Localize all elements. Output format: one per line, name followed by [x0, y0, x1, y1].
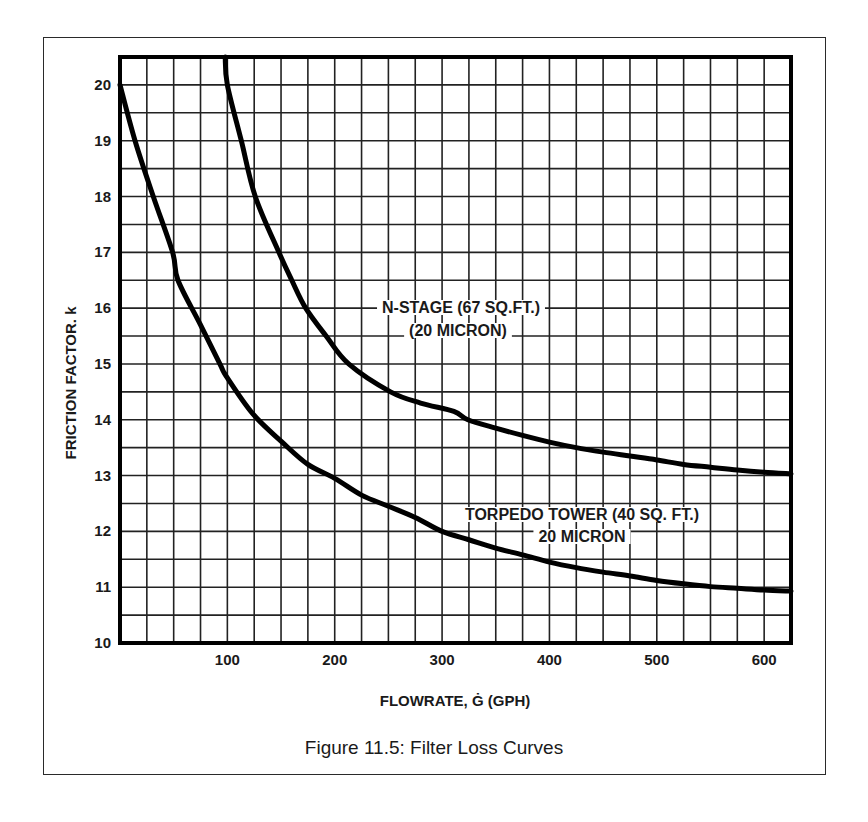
x-tick-label: 600: [752, 651, 777, 668]
plot-border: [120, 57, 791, 643]
torpedo-tower-label-line: TORPEDO TOWER (40 SQ. FT.): [465, 506, 699, 523]
y-tick-label: 13: [94, 467, 111, 484]
y-axis-title: FRICTION FACTOR. k: [62, 306, 79, 460]
y-tick-label: 15: [94, 355, 111, 372]
y-tick-label: 12: [94, 522, 111, 539]
y-tick-label: 17: [94, 243, 111, 260]
grid: [120, 57, 791, 643]
y-tick-label: 18: [94, 188, 111, 205]
y-tick-label: 19: [94, 132, 111, 149]
x-tick-label: 300: [430, 651, 455, 668]
x-tick-label: 400: [537, 651, 562, 668]
y-tick-label: 11: [95, 578, 111, 595]
y-tick-labels: 1011121314151617181920: [94, 76, 111, 651]
n-stage-curve: [225, 57, 791, 474]
y-tick-label: 10: [94, 634, 111, 651]
y-tick-label: 16: [94, 299, 111, 316]
x-tick-label: 500: [644, 651, 669, 668]
torpedo-tower-label-line: 20 MICRON: [538, 528, 625, 545]
figure-caption: Figure 11.5: Filter Loss Curves: [0, 737, 868, 759]
x-axis-title: FLOWRATE, Ġ (GPH): [380, 692, 531, 709]
n-stage-label-line: (20 MICRON): [409, 322, 507, 339]
x-tick-labels: 100200300400500600: [215, 651, 777, 668]
x-tick-label: 200: [322, 651, 347, 668]
filter-loss-chart: N-STAGE (67 SQ.FT.)(20 MICRON)TORPEDO TO…: [0, 0, 868, 822]
y-tick-label: 14: [94, 411, 111, 428]
n-stage-label-line: N-STAGE (67 SQ.FT.): [382, 299, 540, 316]
y-tick-label: 20: [94, 76, 111, 93]
x-tick-label: 100: [215, 651, 240, 668]
